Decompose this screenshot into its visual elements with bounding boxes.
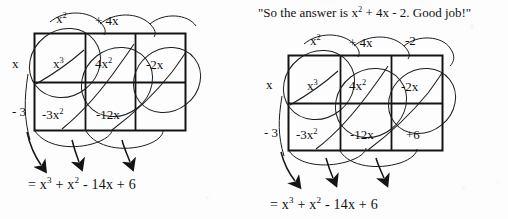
header-exponent: 2 — [317, 32, 321, 42]
right-answer-line: = x3 + x2 - 14x + 6 — [270, 198, 378, 212]
left-answer-line: = x3 + x2 - 14x + 6 — [28, 178, 136, 192]
answer-term-2-exponent: 2 — [316, 195, 321, 205]
answer-term-2-exponent: 2 — [74, 175, 79, 185]
cell-exponent: 3 — [60, 55, 64, 65]
right-cell-r0c0: x3 — [307, 79, 318, 92]
quote-lead: "So the answer is — [258, 5, 348, 20]
quote-rest: + 4x - 2. Good job!" — [365, 5, 471, 20]
right-row-label-0: x — [266, 78, 273, 91]
minus-sign: - — [83, 177, 88, 192]
scan-speck — [462, 186, 465, 190]
cell-exponent: 3 — [314, 77, 318, 87]
right-cell-r1c0: -3x2 — [296, 128, 318, 141]
right-column-header-0: x2 — [310, 34, 321, 47]
answer-term-3: 14x — [92, 177, 114, 192]
cell-exponent: 2 — [108, 55, 112, 65]
right-cell-r0c1: 4x2 — [349, 79, 366, 92]
left-cell-r1c0: -3x2 — [42, 108, 64, 121]
answer-term-1-base: x — [40, 177, 47, 192]
equals-sign: = — [270, 197, 278, 212]
right-column-header-2: -2 — [405, 34, 416, 47]
cell-exponent: 2 — [362, 77, 366, 87]
plus-sign-2: + — [359, 197, 367, 212]
plus-sign-2: + — [117, 177, 125, 192]
scan-speck — [470, 24, 474, 29]
cell-exponent: 2 — [313, 126, 317, 136]
left-column-header-1: + 4x — [95, 14, 119, 27]
left-cell-r0c2: -2x — [146, 58, 163, 71]
left-cell-r0c0: x3 — [53, 57, 64, 70]
scan-speck — [206, 196, 209, 199]
worksheet-canvas: x2 + 4x x - 3 x3 4x2 -2x -3x2 -12x = x3 … — [0, 0, 508, 219]
right-cell-r0c2: -2x — [401, 80, 418, 93]
header-exponent: 2 — [63, 10, 67, 20]
answer-term-4: 6 — [371, 197, 378, 212]
scan-speck — [497, 182, 499, 185]
quote-term-exponent: 2 — [358, 4, 362, 14]
plus-sign-1: + — [55, 177, 63, 192]
right-row-label-1: - 3 — [264, 126, 278, 139]
cell-coefficient: -3x — [42, 107, 59, 122]
cell-coefficient: 4x — [349, 78, 362, 93]
cell-coefficient: 4x — [95, 56, 108, 71]
plus-sign-1: + — [297, 197, 305, 212]
left-cell-r0c1: 4x2 — [95, 57, 112, 70]
right-column-header-1: + 4x — [349, 36, 373, 49]
answer-term-1-exponent: 3 — [47, 175, 52, 185]
answer-term-3: 14x — [334, 197, 356, 212]
minus-sign: - — [325, 197, 330, 212]
answer-quote-caption: "So the answer is x2 + 4x - 2. Good job!… — [258, 6, 471, 19]
left-arrows — [27, 132, 130, 165]
left-cell-r1c1: -12x — [96, 108, 120, 121]
answer-term-1-base: x — [282, 197, 289, 212]
answer-term-1-exponent: 3 — [289, 195, 294, 205]
right-cell-r1c2: +6 — [406, 128, 420, 141]
cell-exponent: 2 — [59, 106, 63, 116]
right-cell-r1c1: -12x — [350, 128, 374, 141]
cell-coefficient: -3x — [296, 127, 313, 142]
answer-term-4: 6 — [129, 177, 136, 192]
equals-sign: = — [28, 177, 36, 192]
left-column-header-0: x2 — [56, 12, 67, 25]
left-row-label-0: x — [12, 57, 19, 70]
left-row-label-1: - 3 — [12, 105, 26, 118]
